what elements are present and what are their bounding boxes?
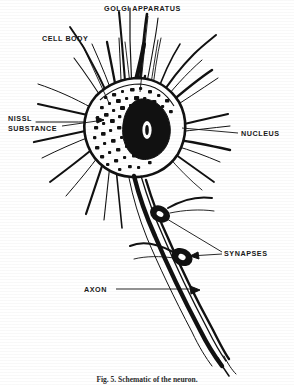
label-nissl-substance: NISSL <box>8 114 32 123</box>
label-cell-body: CELL BODY <box>42 34 88 43</box>
label-synapses: SYNAPSES <box>224 249 268 258</box>
label-nissl-substance-line2: SUBSTANCE <box>8 124 57 133</box>
neuron-figure: GOLGI APPARATUS CELL BODY NISSL SUBSTANC… <box>0 0 294 385</box>
label-nucleus: NUCLEUS <box>241 129 280 138</box>
figure-caption: Fig. 5. Schematic of the neuron. <box>0 375 294 384</box>
label-axon: AXON <box>84 285 107 294</box>
neuron-drawing <box>0 0 294 385</box>
label-golgi-apparatus: GOLGI APPARATUS <box>104 4 181 13</box>
